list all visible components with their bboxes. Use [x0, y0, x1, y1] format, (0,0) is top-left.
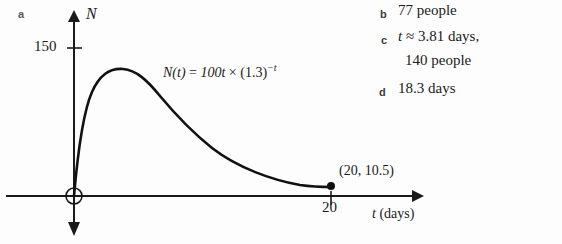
answers-panel: b 77 people c t ≈ 3.81 days, 140 people …	[372, 0, 562, 120]
answer-c-variable: t	[398, 28, 402, 44]
part-label-c: c	[381, 34, 387, 46]
part-label-b: b	[380, 8, 387, 20]
endpoint-dot	[327, 182, 335, 190]
answer-c-value: ≈ 3.81 days,	[406, 28, 479, 44]
formula-lhs: N(t)	[163, 65, 186, 80]
answer-c-text-line2: 140 people	[405, 52, 471, 69]
y-axis-arrowhead	[68, 10, 80, 22]
curve-path	[74, 69, 331, 196]
answer-c-text-line1: t ≈ 3.81 days,	[398, 28, 479, 45]
formula-exponent: −t	[267, 62, 277, 73]
formula-coefficient: 100t	[200, 65, 225, 80]
y-axis-down-arrowhead	[68, 222, 80, 236]
x-axis-label: t (days)	[372, 206, 414, 222]
formula-times: ×	[229, 65, 237, 80]
curve-formula-label: N(t) = 100t × (1.3)−t	[163, 62, 277, 81]
x-tick-label-20: 20	[322, 199, 337, 216]
formula-base: (1.3)	[240, 65, 267, 80]
part-label-d: d	[379, 86, 386, 98]
answer-d-text: 18.3 days	[398, 80, 456, 97]
figure-root: a N 150 20	[0, 0, 562, 244]
formula-equals: =	[189, 65, 197, 80]
point-annotation: (20, 10.5)	[339, 163, 394, 179]
x-axis-arrowhead	[412, 190, 424, 202]
answer-b-text: 77 people	[398, 2, 457, 19]
y-tick-label-150: 150	[34, 38, 57, 55]
x-axis-label-unit: (days)	[376, 206, 415, 221]
y-axis-label: N	[86, 5, 97, 23]
